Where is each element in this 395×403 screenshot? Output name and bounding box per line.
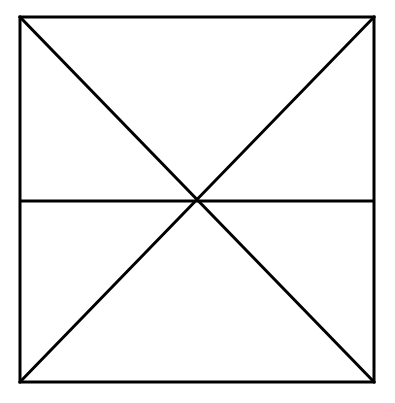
- square-with-diagonals-figure: [0, 0, 395, 403]
- diagram-canvas: [0, 0, 395, 403]
